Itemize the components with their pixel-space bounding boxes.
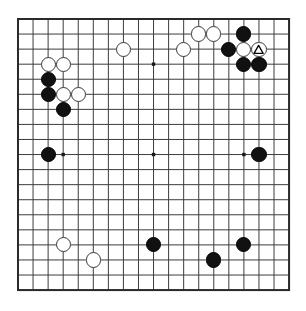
white-stone[interactable] <box>71 87 86 102</box>
go-board-container <box>0 0 306 311</box>
white-stone[interactable] <box>251 42 266 57</box>
white-stone[interactable] <box>86 252 101 267</box>
black-stone[interactable] <box>251 57 266 72</box>
white-stone[interactable] <box>116 42 131 57</box>
black-stone[interactable] <box>221 42 236 57</box>
white-stone[interactable] <box>56 87 71 102</box>
black-stone[interactable] <box>41 72 56 87</box>
white-stone[interactable] <box>56 57 71 72</box>
black-stone[interactable] <box>251 147 266 162</box>
star-point <box>242 153 245 156</box>
white-stone[interactable] <box>41 57 56 72</box>
white-stone[interactable] <box>176 42 191 57</box>
black-stone[interactable] <box>56 102 71 117</box>
star-point <box>152 62 155 65</box>
white-stone[interactable] <box>206 26 221 41</box>
white-stone[interactable] <box>191 26 206 41</box>
black-stone[interactable] <box>236 26 251 41</box>
star-point <box>61 153 64 156</box>
star-point <box>152 153 155 156</box>
black-stone[interactable] <box>206 252 221 267</box>
black-stone[interactable] <box>41 87 56 102</box>
black-stone[interactable] <box>41 147 56 162</box>
